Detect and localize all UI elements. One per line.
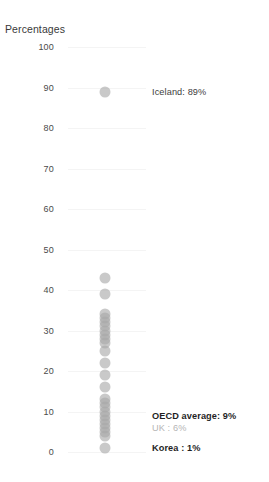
data-point [100,86,111,97]
data-point [100,442,111,453]
annotation-label: UK : 6% [152,423,186,433]
data-point [100,272,111,283]
gridline [68,128,146,129]
data-point [100,345,111,356]
y-axis-tick-label: 20 [20,366,54,376]
gridline [68,250,146,251]
chart-title: Percentages [5,23,65,35]
y-axis-tick-label: 70 [20,164,54,174]
data-point [100,382,111,393]
y-axis-tick-label: 60 [20,204,54,214]
y-axis-tick-label: 50 [20,245,54,255]
y-axis-tick-label: 80 [20,123,54,133]
y-axis-tick-label: 90 [20,83,54,93]
gridline [68,209,146,210]
y-axis-tick-label: 30 [20,326,54,336]
y-axis-tick-label: 0 [20,447,54,457]
data-point [100,370,111,381]
annotation-label: OECD average: 9% [152,411,236,421]
data-point [100,430,111,441]
y-axis-tick-label: 10 [20,407,54,417]
data-point [100,289,111,300]
annotation-label: Iceland: 89% [152,87,206,97]
y-axis-tick-label: 40 [20,285,54,295]
dot-plot-chart: Percentages 1009080706050403020100 Icela… [0,0,269,482]
data-point [100,357,111,368]
gridline [68,47,146,48]
y-axis-tick-label: 100 [20,42,54,52]
gridline [68,169,146,170]
annotation-label: Korea : 1% [152,443,201,453]
